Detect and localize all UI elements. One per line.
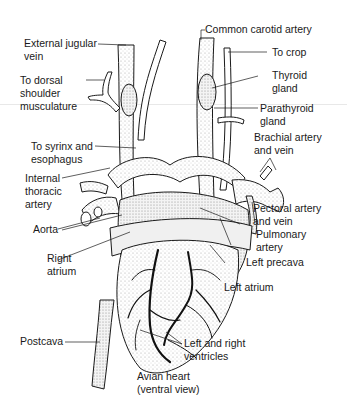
label-to-dorsal-line2: shoulder (20, 87, 60, 100)
label-internal-thoracic-line3: artery (25, 198, 52, 211)
label-to-syrinx-line2: esophagus (31, 153, 82, 166)
label-to-dorsal-line1: To dorsal (20, 74, 63, 87)
label-external-jugular-vein-line1: External jugular (24, 37, 97, 50)
figure-caption-line2: (ventral view) (137, 383, 199, 396)
avian-heart-diagram: Common carotid artery External jugular v… (0, 0, 347, 405)
label-parathyroid-gland-line2: gland (260, 115, 286, 128)
label-pulmonary-line1: Pulmonary (256, 228, 306, 241)
label-thyroid-gland-line1: Thyroid (272, 69, 307, 82)
label-common-carotid-artery: Common carotid artery (205, 23, 312, 36)
label-left-precava: Left precava (246, 256, 304, 269)
label-brachial-line1: Brachial artery (254, 131, 322, 144)
label-to-dorsal-line3: musculature (20, 100, 77, 113)
label-left-atrium: Left atrium (224, 281, 274, 294)
label-pectoral-line1: Pectoral artery (253, 202, 321, 215)
label-pulmonary-line2: artery (256, 241, 283, 254)
label-internal-thoracic-line1: Internal (25, 172, 60, 185)
label-postcava: Postcava (20, 335, 63, 348)
label-thyroid-gland-line2: gland (272, 82, 298, 95)
label-external-jugular-vein-line2: vein (24, 50, 43, 63)
label-right-atrium-line1: Right (47, 252, 72, 265)
label-ventricles-line1: Left and right (184, 337, 245, 350)
label-parathyroid-gland-line1: Parathyroid (260, 102, 314, 115)
label-brachial-line2: and vein (254, 144, 294, 157)
label-internal-thoracic-line2: thoracic (25, 185, 62, 198)
label-ventricles-line2: ventricles (184, 350, 228, 363)
label-aorta: Aorta (33, 223, 58, 236)
figure-caption-line1: Avian heart (137, 370, 190, 383)
label-right-atrium-line2: atrium (47, 265, 76, 278)
label-pectoral-line2: and vein (253, 215, 293, 228)
label-to-syrinx-line1: To syrinx and (31, 140, 93, 153)
label-to-crop: To crop (272, 46, 306, 59)
